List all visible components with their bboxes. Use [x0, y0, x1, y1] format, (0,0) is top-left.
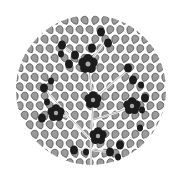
leaf — [20, 53, 30, 64]
leaf — [150, 72, 159, 82]
leaf — [105, 63, 114, 73]
leaf — [30, 53, 40, 64]
leaf — [45, 44, 55, 55]
leaf — [15, 82, 25, 93]
flower-bud — [70, 145, 78, 154]
flower-bud — [65, 59, 73, 68]
leaf — [150, 129, 160, 140]
flower-center — [54, 111, 58, 115]
leaf — [40, 129, 49, 139]
leaf — [75, 82, 85, 93]
leaf — [145, 82, 154, 92]
leaf — [125, 44, 134, 54]
leaf — [90, 34, 99, 44]
leaf — [80, 15, 90, 26]
leaf — [140, 34, 149, 44]
flower-center — [96, 134, 100, 138]
leaf — [120, 34, 129, 44]
leaf — [70, 72, 80, 83]
leaf — [100, 15, 109, 25]
leaf — [145, 120, 155, 131]
leaf — [120, 53, 129, 63]
leaf — [80, 34, 90, 45]
leaf — [145, 44, 154, 54]
leaf — [35, 101, 44, 111]
flower-center — [130, 104, 134, 108]
leaf — [60, 15, 70, 26]
flower-bud — [38, 113, 46, 122]
leaf — [90, 72, 99, 82]
leaf — [110, 91, 120, 102]
leaf — [150, 91, 160, 102]
leaf — [60, 148, 69, 158]
leaf — [85, 25, 95, 36]
leaf — [70, 15, 80, 26]
leaf — [100, 72, 109, 82]
leaf — [45, 120, 54, 130]
flower-bud — [58, 40, 66, 49]
leaf — [30, 129, 39, 139]
leaf — [110, 53, 119, 63]
leaf — [155, 101, 165, 112]
leaf — [40, 53, 50, 64]
leaf — [75, 101, 84, 111]
leaf — [145, 63, 154, 73]
leaf — [120, 15, 129, 25]
leaf — [20, 110, 29, 120]
leaf — [130, 148, 140, 159]
leaf — [160, 72, 169, 82]
flower-bud — [48, 78, 54, 85]
leaf — [35, 44, 45, 55]
leaf — [45, 25, 55, 36]
flower-bud — [138, 82, 144, 89]
leaf — [130, 34, 139, 44]
leaf — [35, 139, 44, 149]
flower-bud — [141, 93, 149, 102]
leaf — [10, 72, 20, 83]
leaf — [65, 82, 75, 93]
leaf — [80, 110, 89, 120]
leaf — [160, 110, 170, 121]
flower-bud — [104, 38, 112, 47]
flower-bud — [116, 140, 124, 149]
leaf — [70, 34, 80, 45]
leaf — [95, 158, 105, 169]
flower-bud — [124, 63, 132, 72]
leaf — [115, 120, 125, 131]
leaf — [20, 91, 29, 101]
leaf — [30, 72, 40, 83]
flower-bud — [83, 149, 89, 156]
leaf — [55, 25, 65, 36]
floral-circle-illustration — [0, 0, 182, 180]
leaf — [20, 72, 30, 83]
leaf — [15, 101, 24, 111]
leaf — [140, 72, 149, 82]
leaf — [40, 34, 50, 45]
leaf — [135, 44, 144, 54]
leaf — [150, 110, 160, 121]
leaf — [110, 129, 120, 140]
leaf — [65, 101, 74, 111]
leaf — [25, 44, 35, 55]
leaf — [45, 139, 54, 149]
leaf — [105, 101, 115, 112]
leaf — [75, 25, 85, 36]
leaf — [55, 139, 64, 149]
leaf — [25, 63, 35, 74]
leaf — [25, 120, 34, 130]
flower-bud — [58, 51, 64, 58]
leaf — [115, 82, 124, 92]
flower-bud — [44, 99, 50, 106]
leaf — [115, 25, 124, 35]
leaf — [25, 82, 35, 93]
leaf — [125, 120, 135, 131]
flower-bud — [97, 27, 105, 36]
leaf — [50, 148, 59, 158]
flower-bud — [88, 43, 96, 52]
leaf — [90, 15, 99, 25]
flower-bud — [139, 107, 145, 114]
flower-bud — [115, 154, 121, 161]
leaf — [70, 91, 79, 101]
leaf — [50, 129, 59, 139]
leaf — [125, 25, 134, 35]
